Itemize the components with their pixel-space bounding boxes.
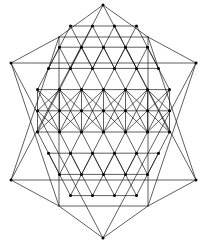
figure-container	[0, 0, 207, 243]
lattice-node	[102, 131, 105, 134]
lattice-node	[124, 173, 127, 176]
lattice-node	[124, 88, 127, 91]
lattice-node	[168, 109, 171, 112]
tetrahedron-grid-svg	[0, 0, 207, 243]
lattice-node	[36, 109, 39, 112]
lattice-node	[36, 131, 39, 134]
lattice-node	[69, 152, 72, 155]
lattice-node	[58, 46, 61, 49]
star-point-node	[195, 62, 198, 65]
lattice-node	[80, 46, 83, 49]
lattice-node	[157, 67, 160, 70]
lattice-node	[80, 173, 83, 176]
lattice-node	[58, 131, 61, 134]
lattice-node	[113, 194, 116, 197]
lattice-node	[58, 88, 61, 91]
lattice-node	[91, 67, 94, 70]
lattice-node	[146, 173, 149, 176]
lattice-node	[47, 67, 50, 70]
lattice-node	[80, 109, 83, 112]
star-point-node	[10, 179, 13, 182]
lattice-node	[135, 25, 138, 28]
lattice-node	[58, 109, 61, 112]
lattice-node	[69, 67, 72, 70]
lattice-node	[168, 131, 171, 134]
lattice-node	[91, 152, 94, 155]
lattice-node	[102, 109, 105, 112]
lattice-node	[80, 131, 83, 134]
lattice-node	[124, 46, 127, 49]
lattice-node	[157, 152, 160, 155]
lattice-node	[135, 152, 138, 155]
lattice-node	[91, 194, 94, 197]
lattice-node	[124, 131, 127, 134]
lattice-node	[91, 25, 94, 28]
lattice-node	[102, 46, 105, 49]
lattice-node	[69, 194, 72, 197]
lattice-node	[168, 88, 171, 91]
lattice-node	[146, 88, 149, 91]
lattice-node	[102, 88, 105, 91]
lattice-node	[102, 173, 105, 176]
lattice-node	[135, 194, 138, 197]
lattice-node	[146, 46, 149, 49]
star-point-node	[195, 179, 198, 182]
star-point-node	[102, 237, 105, 240]
lattice-node	[113, 152, 116, 155]
star-point-node	[102, 4, 105, 7]
lattice-node	[58, 173, 61, 176]
lattice-node	[47, 152, 50, 155]
lattice-node	[113, 67, 116, 70]
lattice-node	[80, 88, 83, 91]
lattice-node	[135, 67, 138, 70]
star-point-node	[10, 62, 13, 65]
lattice-node	[146, 109, 149, 112]
lattice-node	[146, 131, 149, 134]
lattice-node	[124, 109, 127, 112]
lattice-node	[69, 25, 72, 28]
lattice-node	[36, 88, 39, 91]
lattice-node	[113, 25, 116, 28]
